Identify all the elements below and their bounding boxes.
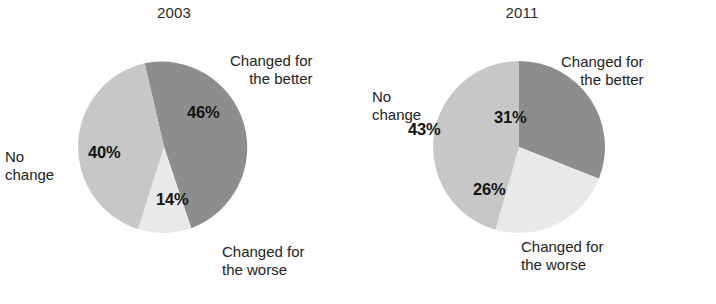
pie-label-changed-for-the-worse-2003: Changed for the worse (222, 243, 305, 278)
pie-value-changed-for-the-better-2011: 31% (494, 108, 526, 127)
pie-label-line2: change (372, 106, 421, 124)
chart-title-2003: 2003 (0, 4, 353, 21)
pie-label-no-change-2011: No change (372, 88, 421, 123)
pie-value-changed-for-the-worse-2003: 14% (156, 190, 188, 209)
pie-label-line1: Changed for (561, 53, 644, 71)
pie-label-line1: Changed for (230, 52, 313, 70)
pie-label-line2: change (5, 166, 54, 184)
pie-value-changed-for-the-better-2003: 46% (187, 103, 219, 122)
chart-title-2011: 2011 (343, 4, 701, 21)
pie-label-line2: the better (230, 70, 313, 88)
pie-label-line1: Changed for (521, 238, 604, 256)
pie-label-changed-for-the-better-2011: Changed for the better (561, 53, 644, 88)
pie-chart-panel-2003: 2003 46% 40% 14% Changed for the better … (0, 0, 358, 304)
pie-label-line2: the better (561, 71, 644, 89)
pie-chart-panel-2011: 2011 31% 43% 26% Changed for the better … (358, 0, 716, 304)
pie-label-line1: Changed for (222, 243, 305, 261)
pie-label-changed-for-the-better-2003: Changed for the better (230, 52, 313, 87)
pie-label-no-change-2003: No change (5, 148, 54, 183)
pie-label-line2: the worse (222, 261, 305, 279)
pie-value-changed-for-the-worse-2011: 26% (473, 180, 505, 199)
pie-label-line2: the worse (521, 256, 604, 274)
pie-label-line1: No (5, 148, 54, 166)
pie-label-changed-for-the-worse-2011: Changed for the worse (521, 238, 604, 273)
pie-value-no-change-2003: 40% (88, 143, 120, 162)
pie-label-line1: No (372, 88, 421, 106)
